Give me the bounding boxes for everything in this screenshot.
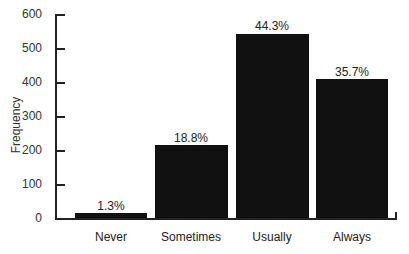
bar-always bbox=[316, 79, 388, 218]
y-tick-600 bbox=[56, 14, 65, 16]
bar-label-always: 35.7% bbox=[312, 65, 392, 79]
y-tick-200 bbox=[56, 150, 65, 152]
y-tick-label-100: 100 bbox=[14, 177, 42, 191]
bar-chart: Frequency 0 100 200 300 400 500 600 1.3%… bbox=[0, 0, 409, 254]
y-tick-100 bbox=[56, 184, 65, 186]
y-tick-300 bbox=[56, 116, 65, 118]
category-label-sometimes: Sometimes bbox=[146, 230, 236, 244]
y-tick-500 bbox=[56, 48, 65, 50]
bar-label-never: 1.3% bbox=[71, 199, 151, 213]
category-label-always: Always bbox=[307, 230, 397, 244]
x-axis-line bbox=[55, 218, 397, 220]
category-label-never: Never bbox=[66, 230, 156, 244]
y-tick-label-0: 0 bbox=[14, 211, 42, 225]
bar-label-usually: 44.3% bbox=[232, 19, 312, 33]
y-tick-label-400: 400 bbox=[14, 75, 42, 89]
bar-sometimes bbox=[155, 145, 228, 218]
bar-usually bbox=[236, 34, 309, 218]
bar-never bbox=[75, 213, 147, 218]
y-tick-400 bbox=[56, 82, 65, 84]
category-label-usually: Usually bbox=[227, 230, 317, 244]
y-tick-label-200: 200 bbox=[14, 143, 42, 157]
bar-label-sometimes: 18.8% bbox=[151, 131, 231, 145]
y-tick-label-600: 600 bbox=[14, 7, 42, 21]
y-tick-label-300: 300 bbox=[14, 109, 42, 123]
x-axis-end-tick bbox=[395, 212, 397, 219]
y-tick-label-500: 500 bbox=[14, 41, 42, 55]
